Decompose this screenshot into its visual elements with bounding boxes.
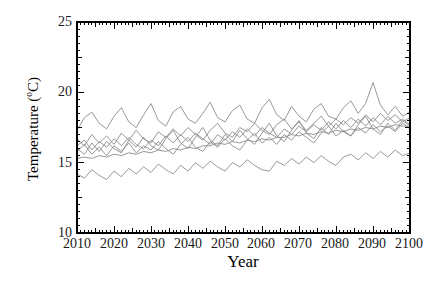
x-tick-label: 2070 <box>278 237 318 251</box>
degree-superscript: o <box>24 92 34 97</box>
x-tick-label: 2060 <box>241 237 281 251</box>
x-tick-label: 2080 <box>315 237 355 251</box>
x-tick-label: 2030 <box>131 237 171 251</box>
x-tick-label: 2090 <box>352 237 392 251</box>
temperature-projection-chart: 25 20 15 10 2010 2020 2030 2040 2050 206… <box>0 0 446 291</box>
x-tick-label: 2050 <box>205 237 245 251</box>
x-tick-label: 2100 <box>389 237 429 251</box>
y-tick-label: 15 <box>42 156 72 170</box>
x-tick-label: 2040 <box>168 237 208 251</box>
y-axis-label: Temperature (oC) <box>24 49 42 209</box>
x-axis-label: Year <box>193 252 293 272</box>
axes-frame <box>77 22 410 233</box>
y-axis-label-text: Temperature ( <box>25 97 41 181</box>
y-tick-label: 25 <box>42 15 72 29</box>
series-line-7 <box>77 150 410 180</box>
series-line-4 <box>77 116 410 154</box>
x-tick-label: 2010 <box>57 237 97 251</box>
x-tick-label: 2020 <box>94 237 134 251</box>
y-tick-label: 20 <box>42 85 72 99</box>
y-axis-label-unit: C) <box>25 77 41 92</box>
